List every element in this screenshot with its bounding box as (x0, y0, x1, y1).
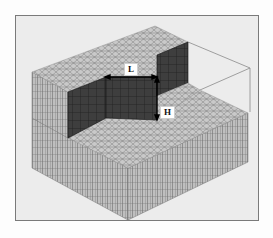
label-L: L (124, 63, 138, 76)
mesh-diagram (0, 0, 273, 238)
figure-canvas: L H (0, 0, 273, 238)
wall-front-segment (106, 77, 157, 120)
label-H: H (160, 106, 175, 119)
